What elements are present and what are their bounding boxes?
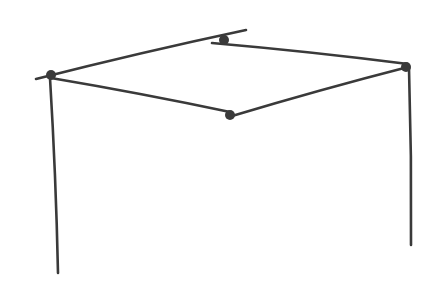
- sketch-canvas: [0, 0, 441, 295]
- edge-front-right: [232, 67, 408, 116]
- node-left: [46, 70, 56, 80]
- edge-left-leg: [50, 78, 58, 273]
- frame-edges: [36, 30, 411, 273]
- edge-left-back: [36, 30, 246, 79]
- node-right: [401, 62, 411, 72]
- node-back: [219, 35, 229, 45]
- frame-nodes: [46, 35, 411, 120]
- node-front: [225, 110, 235, 120]
- edge-left-front: [51, 78, 230, 112]
- edge-right-leg: [409, 68, 411, 245]
- edge-back-right: [212, 43, 408, 64]
